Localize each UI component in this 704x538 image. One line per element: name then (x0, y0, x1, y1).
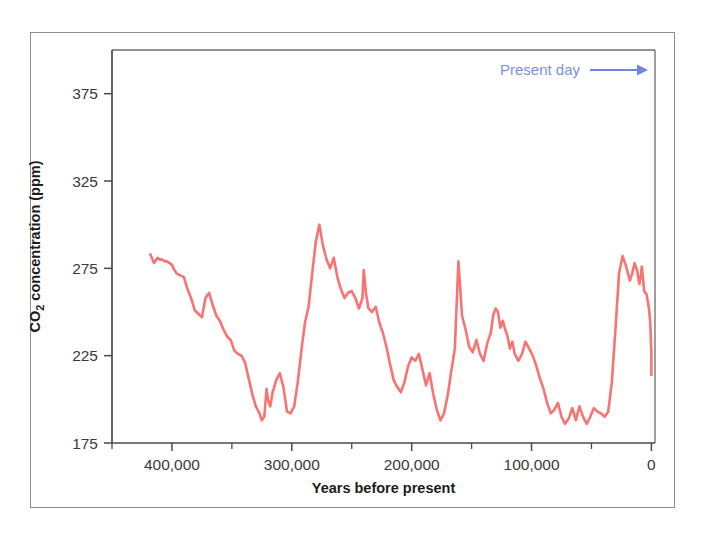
present-day-label: Present day (500, 61, 581, 78)
x-tick-label-400000: 400,000 (144, 456, 200, 473)
y-tick-label-175: 175 (72, 435, 98, 452)
y-tick-label-275: 275 (72, 260, 98, 277)
x-tick-label-0: 0 (647, 456, 656, 473)
x-tick-label-100000: 100,000 (504, 456, 560, 473)
co2-line-chart: 175225275325375400,000300,000200,000100,… (0, 0, 704, 538)
present-day-arrow-head (637, 65, 648, 76)
y-tick-label-375: 375 (72, 85, 98, 102)
y-tick-label-225: 225 (72, 347, 98, 364)
x-axis-title: Years before present (312, 480, 456, 496)
figure-root: 175225275325375400,000300,000200,000100,… (0, 0, 704, 538)
x-tick-label-300000: 300,000 (264, 456, 320, 473)
y-axis-title: CO2 concentration (ppm) (27, 160, 46, 332)
series-line-0 (150, 225, 651, 424)
y-tick-label-325: 325 (72, 173, 98, 190)
x-tick-label-200000: 200,000 (384, 456, 440, 473)
